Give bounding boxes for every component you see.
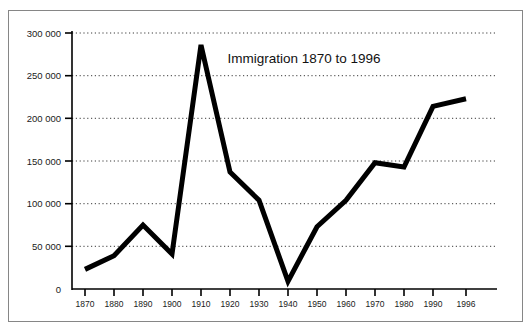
x-tick-label-1890: 1890 <box>134 299 153 309</box>
x-tick-label-1960: 1960 <box>337 299 356 309</box>
y-tick-label-0: 0 <box>56 284 61 295</box>
chart-title: Immigration 1870 to 1996 <box>227 51 380 66</box>
figure-container: 300 000 250 000 200 000 150 000 100 000 … <box>0 0 532 336</box>
x-tick-label-1900: 1900 <box>163 299 182 309</box>
y-axis <box>65 31 72 290</box>
y-tick-label-50000: 50 000 <box>32 241 61 252</box>
y-tick-label-250000: 250 000 <box>27 70 61 81</box>
x-tick-label-1930: 1930 <box>250 299 269 309</box>
y-tick-label-150000: 150 000 <box>27 156 61 167</box>
x-tick-labels: 1870 1880 1890 1900 1910 1920 1930 1940 … <box>76 299 476 309</box>
x-tick-label-1880: 1880 <box>105 299 124 309</box>
x-tick-label-1990: 1990 <box>424 299 443 309</box>
x-tick-label-1980: 1980 <box>395 299 414 309</box>
x-tick-label-1996: 1996 <box>457 299 476 309</box>
y-tick-label-300000: 300 000 <box>27 28 61 39</box>
y-tick-label-200000: 200 000 <box>27 113 61 124</box>
y-tick-label-100000: 100 000 <box>27 198 61 209</box>
x-tick-label-1970: 1970 <box>366 299 385 309</box>
x-axis <box>72 289 497 296</box>
x-tick-label-1940: 1940 <box>279 299 298 309</box>
x-tick-label-1910: 1910 <box>192 299 211 309</box>
data-series-immigration <box>85 45 466 281</box>
y-tick-labels: 300 000 250 000 200 000 150 000 100 000 … <box>27 28 61 295</box>
x-tick-label-1950: 1950 <box>308 299 327 309</box>
x-tick-label-1870: 1870 <box>76 299 95 309</box>
x-tick-label-1920: 1920 <box>221 299 240 309</box>
chart-plot: 300 000 250 000 200 000 150 000 100 000 … <box>0 0 532 336</box>
